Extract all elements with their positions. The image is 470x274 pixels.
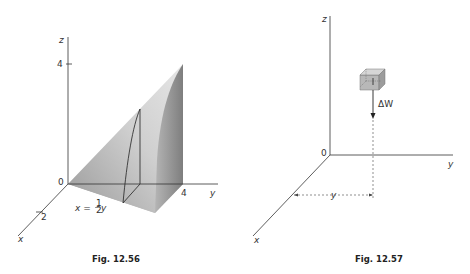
arrowhead-right xyxy=(369,194,373,197)
volume-element-cube xyxy=(360,69,385,90)
figure-12-57: z 0 y x ΔW y Fig. 12.57 xyxy=(253,14,454,264)
y-axis-label: y xyxy=(209,188,216,198)
z-axis-label: z xyxy=(321,14,327,24)
equation-label: x = 1 2 y xyxy=(74,198,107,215)
z-tick-label: 4 xyxy=(57,59,63,69)
x-axis-label: x xyxy=(253,235,260,245)
solid-region xyxy=(68,64,183,213)
svg-text:x =: x = xyxy=(74,203,91,213)
arrowhead-left xyxy=(294,194,298,197)
y-axis-label: y xyxy=(447,159,454,169)
svg-text:y: y xyxy=(100,203,107,213)
origin-label: 0 xyxy=(58,177,64,187)
figures-canvas: z 4 0 4 y 2 x x = 1 2 y Fig. 12.56 z 0 y… xyxy=(0,0,470,274)
origin-label: 0 xyxy=(321,148,327,158)
x-axis xyxy=(253,155,330,236)
x-tick-label: 2 xyxy=(41,212,47,222)
delta-w-label: ΔW xyxy=(378,99,393,109)
figure-12-56: z 4 0 4 y 2 x x = 1 2 y Fig. 12.56 xyxy=(17,35,218,264)
weight-arrow xyxy=(371,90,376,119)
y-tick-label: 4 xyxy=(181,188,187,198)
x-axis-label: x xyxy=(17,234,24,244)
projection-lines xyxy=(294,120,373,199)
axes xyxy=(253,16,453,236)
figure-caption: Fig. 12.56 xyxy=(92,254,140,264)
x-axis xyxy=(18,184,68,236)
z-axis-label: z xyxy=(58,35,64,45)
figure-caption: Fig. 12.57 xyxy=(355,254,403,264)
distance-label: y xyxy=(330,190,337,200)
